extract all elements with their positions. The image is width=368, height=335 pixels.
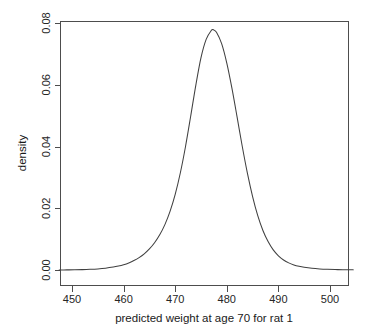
y-axis-title: density bbox=[16, 135, 28, 172]
x-tick-label: 460 bbox=[114, 293, 132, 305]
figure-background bbox=[0, 0, 368, 335]
x-tick-label: 500 bbox=[321, 293, 339, 305]
x-tick-label: 490 bbox=[269, 293, 287, 305]
y-tick-label: 0.00 bbox=[40, 259, 52, 280]
x-tick-label: 450 bbox=[63, 293, 81, 305]
x-tick-label: 480 bbox=[218, 293, 236, 305]
y-tick-label: 0.08 bbox=[40, 12, 52, 33]
y-tick-label: 0.04 bbox=[40, 136, 52, 157]
y-tick-label: 0.06 bbox=[40, 74, 52, 95]
density-plot-figure: 450460470480490500 0.000.020.040.060.08 … bbox=[0, 0, 368, 335]
x-axis-title: predicted weight at age 70 for rat 1 bbox=[115, 312, 293, 324]
plot-canvas: 450460470480490500 0.000.020.040.060.08 … bbox=[0, 0, 368, 335]
x-tick-label: 470 bbox=[166, 293, 184, 305]
y-tick-label: 0.02 bbox=[40, 198, 52, 219]
